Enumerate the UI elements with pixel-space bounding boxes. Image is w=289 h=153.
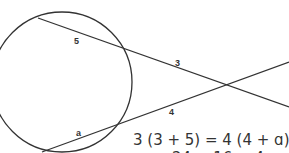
label-bottom-external: 4 bbox=[169, 107, 174, 117]
circle bbox=[0, 12, 132, 152]
equation-line-2: 24 = 16 + 4ɑ bbox=[172, 149, 273, 153]
label-top-internal: 5 bbox=[74, 36, 79, 46]
label-bottom-internal: a bbox=[76, 128, 82, 138]
equation-line-1: 3 (3 + 5) = 4 (4 + ɑ) bbox=[133, 131, 289, 149]
secant-diagram: 5 3 4 a 3 (3 + 5) = 4 (4 + ɑ) 24 = 16 + … bbox=[0, 0, 289, 153]
label-top-external: 3 bbox=[175, 58, 180, 68]
top-secant-line bbox=[38, 18, 289, 107]
